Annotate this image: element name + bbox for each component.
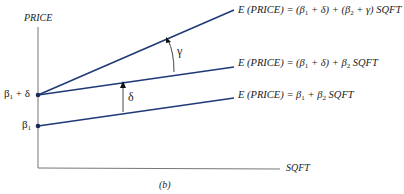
eq-part: + γ) SQFT — [354, 4, 402, 15]
equation-top: E (PRICE) = (β1 + δ) + (β2 + γ) SQFT — [238, 4, 401, 17]
eq-part: + δ) + (β — [308, 4, 350, 15]
figure-caption: (b) — [159, 179, 171, 190]
gamma-arc — [168, 40, 174, 72]
eq-part: E (PRICE) = (β — [238, 57, 305, 68]
tick-suffix: + δ — [13, 87, 30, 99]
line-middle — [38, 67, 234, 95]
eq-part: SQFT — [326, 89, 354, 100]
eq-part: SQFT — [350, 57, 378, 68]
y-axis-label: PRICE — [24, 12, 52, 23]
equation-bottom: E (PRICE) = β1 + β2 SQFT — [238, 89, 354, 102]
x-axis-label: SQFT — [286, 162, 310, 173]
intercept-dot-upper — [36, 93, 41, 98]
equation-middle: E (PRICE) = (β1 + δ) + β2 SQFT — [238, 57, 378, 70]
intercept-dot-lower — [36, 124, 41, 129]
line-bottom — [38, 98, 234, 126]
eq-part: E (PRICE) = β — [238, 89, 301, 100]
y-tick-beta1: β1 — [22, 118, 31, 132]
eq-part: + δ) + β — [308, 57, 346, 68]
eq-part: E (PRICE) = (β — [238, 4, 305, 15]
x-axis — [38, 168, 280, 169]
gamma-label: γ — [177, 44, 182, 59]
y-tick-beta1-plus-delta: β1 + δ — [4, 87, 30, 101]
eq-part: + β — [305, 89, 323, 100]
line-top — [38, 10, 234, 95]
tick-sub: 1 — [28, 124, 32, 132]
delta-label: δ — [128, 90, 134, 105]
